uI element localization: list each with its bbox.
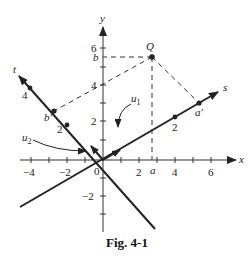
y-tick-label: −2 xyxy=(82,190,94,202)
y-axis-label: y xyxy=(99,12,105,24)
y-axis xyxy=(100,27,106,232)
t-tick-label: 2 xyxy=(57,123,63,135)
s-axis-label: s xyxy=(223,81,227,93)
y-tick-label: 2 xyxy=(91,115,97,127)
x-axis-label: x xyxy=(238,153,244,165)
x-tick-label: 2 xyxy=(136,166,142,178)
u1-label: u1 xyxy=(131,92,141,107)
a-prime-label: a′ xyxy=(195,106,204,118)
a-label: a xyxy=(150,164,156,176)
origin-label: 0 xyxy=(94,165,100,177)
b-label: b xyxy=(93,51,99,63)
t-tick-label: 4 xyxy=(22,89,28,101)
t-axis-label: t xyxy=(13,63,17,75)
x-tick-label: 4 xyxy=(172,166,178,178)
u1-pointer xyxy=(118,104,131,127)
x-tick-label: −2 xyxy=(59,166,71,178)
figure-caption: Fig. 4-1 xyxy=(106,235,148,250)
q-label: Q xyxy=(146,40,154,52)
s-tick-2-dot xyxy=(173,115,178,120)
x-axis xyxy=(20,157,236,163)
u2-label: u2 xyxy=(22,131,32,146)
t-tick-2-dot xyxy=(65,123,70,128)
x-tick-label: −4 xyxy=(23,166,35,178)
u1-vector xyxy=(103,150,120,160)
y-tick-label: 4 xyxy=(91,79,97,91)
x-tick-label: 6 xyxy=(208,166,214,178)
figure-4-1: x y s t 0 −4 −2 2 4 6 a 6 4 2 −2 b Q a′ … xyxy=(0,0,251,256)
b-prime-label: b′ xyxy=(44,111,53,123)
s-tick-label: 2 xyxy=(172,121,178,133)
q-point xyxy=(149,54,155,60)
t-tick-4-dot xyxy=(28,86,33,91)
